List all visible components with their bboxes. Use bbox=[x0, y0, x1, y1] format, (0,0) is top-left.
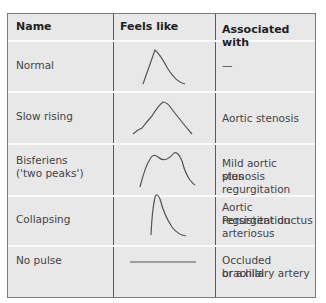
row-divider bbox=[8, 91, 315, 93]
header-associated-with: Associated with bbox=[222, 23, 315, 49]
bisferiens-waveform-icon bbox=[135, 147, 200, 192]
column-divider bbox=[113, 14, 114, 297]
associated-with: Aortic stenosis bbox=[222, 112, 299, 125]
associated-with-line3: arteriosus bbox=[222, 227, 275, 240]
header-feels-like: Feels like bbox=[120, 20, 178, 33]
collapsing-waveform-icon bbox=[148, 191, 198, 241]
pulse-types-table: Name Feels like Associated with Normal —… bbox=[7, 13, 316, 298]
row-divider bbox=[8, 245, 315, 247]
row-name: Bisferiens bbox=[16, 154, 68, 167]
row-name-note: ('two peaks') bbox=[16, 167, 84, 180]
flat-line-waveform-icon bbox=[128, 252, 203, 272]
header-name: Name bbox=[16, 20, 52, 33]
associated-with-line2: plus regurgitation bbox=[222, 170, 315, 196]
normal-pulse-waveform-icon bbox=[138, 44, 198, 89]
row-name: Collapsing bbox=[16, 213, 70, 226]
slow-rising-waveform-icon bbox=[130, 96, 205, 141]
row-name: Normal bbox=[16, 59, 54, 72]
associated-with-line2: or axillary artery bbox=[222, 267, 310, 280]
column-divider bbox=[215, 14, 216, 297]
row-divider bbox=[8, 143, 315, 145]
row-name: No pulse bbox=[16, 254, 62, 267]
row-name: Slow rising bbox=[16, 110, 73, 123]
associated-with-line2: Persistent ductus bbox=[222, 214, 313, 227]
associated-with: — bbox=[222, 59, 233, 72]
